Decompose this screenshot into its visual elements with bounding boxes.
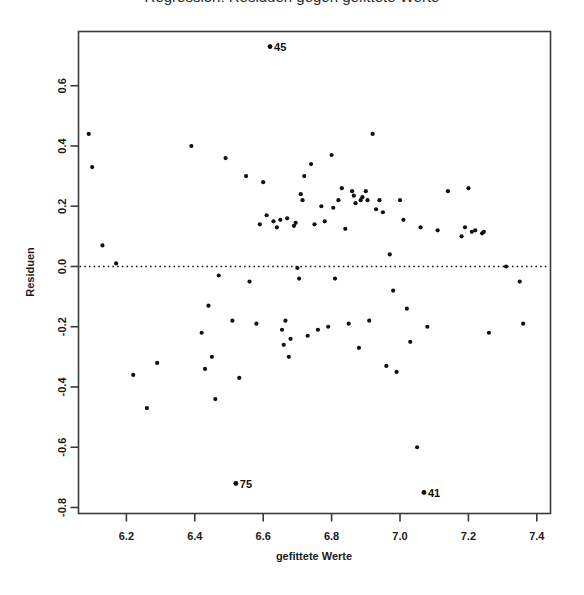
scatter-point [230, 319, 234, 323]
scatter-point [203, 367, 207, 371]
x-tick-label: 7.2 [461, 530, 476, 542]
scatter-points [87, 44, 526, 494]
x-tick-label: 7.0 [392, 530, 407, 542]
scatter-point [100, 243, 104, 247]
scatter-point [459, 234, 463, 238]
scatter-point [326, 325, 330, 329]
y-tick-label: 0.2 [57, 199, 69, 214]
scatter-point [352, 194, 356, 198]
scatter-point [302, 174, 306, 178]
scatter-point [436, 228, 440, 232]
scatter-point [405, 307, 409, 311]
point-annotations: 457541 [233, 41, 440, 499]
scatter-point [384, 364, 388, 368]
scatter-point [394, 370, 398, 374]
y-tick-label: -0.2 [57, 317, 69, 336]
scatter-point [287, 355, 291, 359]
scatter-point [336, 198, 340, 202]
scatter-point [353, 201, 357, 205]
scatter-point [217, 273, 221, 277]
scatter-point [323, 219, 327, 223]
scatter-point [466, 186, 470, 190]
y-tick-label: -0.8 [57, 498, 69, 517]
scatter-point [408, 340, 412, 344]
scatter-point [391, 288, 395, 292]
scatter-point [210, 355, 214, 359]
x-tick-label: 6.4 [187, 530, 203, 542]
scatter-point [200, 331, 204, 335]
annotated-point-label: 45 [274, 41, 286, 53]
x-tick-label: 6.8 [324, 530, 339, 542]
scatter-point [244, 174, 248, 178]
scatter-point [446, 189, 450, 193]
scatter-point [343, 227, 347, 231]
residual-plot-figure: Regression: Residuen gegen gefittete Wer… [0, 0, 584, 595]
scatter-point [223, 156, 227, 160]
x-axis-ticks: 6.26.46.66.87.07.27.4 [119, 514, 546, 542]
y-tick-label: 0.0 [57, 259, 69, 274]
scatter-point [90, 165, 94, 169]
scatter-point [189, 144, 193, 148]
scatter-point [261, 180, 265, 184]
scatter-point [463, 225, 467, 229]
scatter-point [297, 276, 301, 280]
plot-frame [79, 32, 551, 514]
scatter-point [521, 322, 525, 326]
scatter-point [155, 361, 159, 365]
scatter-point [285, 216, 289, 220]
scatter-point [347, 322, 351, 326]
scatter-point [374, 207, 378, 211]
scatter-point [340, 186, 344, 190]
scatter-point [331, 206, 335, 210]
scatter-point [367, 319, 371, 323]
scatter-point [254, 322, 258, 326]
scatter-point [398, 198, 402, 202]
y-tick-label: 0.6 [57, 78, 69, 93]
scatter-point [425, 325, 429, 329]
scatter-point [131, 373, 135, 377]
scatter-point [473, 228, 477, 232]
scatter-point [237, 376, 241, 380]
annotated-point-marker [268, 44, 273, 49]
scatter-point [312, 222, 316, 226]
y-tick-label: -0.4 [57, 377, 69, 397]
scatter-point [415, 445, 419, 449]
scatter-point [401, 218, 405, 222]
scatter-point [278, 218, 282, 222]
scatter-point [306, 334, 310, 338]
annotated-point-marker [233, 481, 238, 486]
x-tick-label: 7.4 [529, 530, 545, 542]
scatter-point [247, 279, 251, 283]
scatter-point [309, 162, 313, 166]
scatter-point [294, 221, 298, 225]
scatter-point [371, 132, 375, 136]
scatter-point [482, 230, 486, 234]
x-axis-label: gefittete Werte [276, 550, 352, 562]
scatter-point [295, 266, 299, 270]
scatter-point [145, 406, 149, 410]
scatter-point [316, 328, 320, 332]
scatter-point [87, 132, 91, 136]
scatter-point [319, 204, 323, 208]
scatter-point [283, 319, 287, 323]
scatter-point [271, 219, 275, 223]
annotated-point-marker [422, 490, 427, 495]
scatter-plot-canvas: 6.26.46.66.87.07.27.4 0.60.40.20.0-0.2-0… [0, 0, 584, 595]
scatter-point [282, 343, 286, 347]
scatter-point [333, 276, 337, 280]
x-tick-label: 6.6 [256, 530, 271, 542]
scatter-point [330, 153, 334, 157]
scatter-point [360, 195, 364, 199]
scatter-point [504, 264, 508, 268]
scatter-point [299, 192, 303, 196]
annotated-point-label: 41 [428, 487, 440, 499]
scatter-point [364, 189, 368, 193]
scatter-point [518, 279, 522, 283]
scatter-point [381, 210, 385, 214]
scatter-point [300, 198, 304, 202]
scatter-point [418, 225, 422, 229]
scatter-point [365, 198, 369, 202]
scatter-point [265, 213, 269, 217]
scatter-point [280, 328, 284, 332]
y-axis-label: Residuen [24, 247, 36, 297]
